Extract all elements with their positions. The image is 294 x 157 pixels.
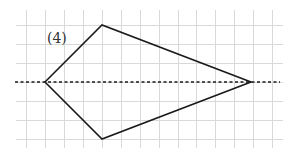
figure-label: (4) (47, 31, 67, 45)
kite-figure (0, 0, 294, 157)
